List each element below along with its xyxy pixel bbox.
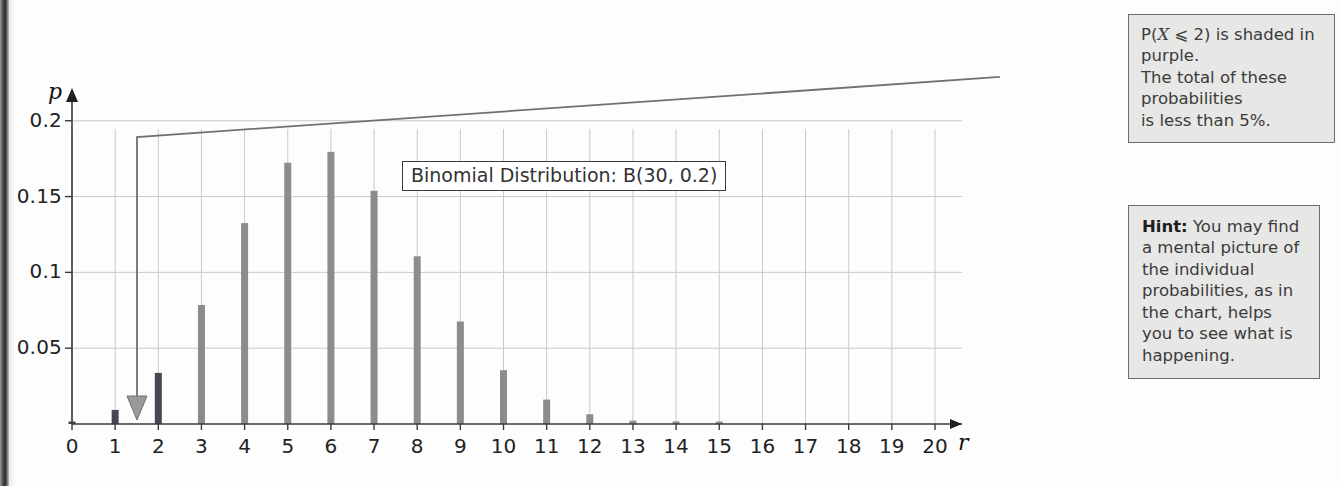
x-tick-label: 8 (397, 434, 437, 458)
x-tick-label: 3 (181, 434, 221, 458)
x-tick-label: 17 (786, 434, 826, 458)
bar (198, 305, 205, 424)
y-tick-label: 0.1 (0, 259, 62, 283)
callout-line-1: P(X ⩽ 2) is shaded in purple. (1141, 24, 1323, 67)
x-tick-label: 6 (311, 434, 351, 458)
bar (586, 414, 593, 424)
bar (284, 163, 291, 424)
x-tick-label: 13 (613, 434, 653, 458)
y-tick-label: 0.2 (0, 108, 62, 132)
x-tick-label: 9 (440, 434, 480, 458)
bar (414, 256, 421, 424)
bar (327, 152, 334, 424)
binomial-distribution-chart: 0.050.10.150.2 0123456789101112131415161… (0, 0, 1000, 486)
bar (241, 223, 248, 424)
bar (500, 370, 507, 424)
bar-shaded (155, 373, 162, 424)
chart-svg (0, 0, 1000, 486)
x-tick-label: 7 (354, 434, 394, 458)
x-tick-label: 20 (915, 434, 955, 458)
x-axis-title: r (958, 430, 969, 455)
x-tick-label: 12 (570, 434, 610, 458)
callout-line-3: is less than 5%. (1141, 110, 1323, 131)
x-axis-arrowhead (950, 419, 962, 429)
x-tick-label: 15 (699, 434, 739, 458)
x-tick-label: 19 (872, 434, 912, 458)
callout-prob-prefix: P( (1141, 25, 1157, 44)
leader-arrowhead-icon (127, 396, 147, 420)
x-tick-label: 11 (527, 434, 567, 458)
hint-callout: Hint: You may find a mental picture of t… (1128, 205, 1320, 379)
bar-shaded (112, 410, 119, 424)
x-tick-label: 0 (52, 434, 92, 458)
x-tick-label: 2 (138, 434, 178, 458)
x-axis-ticks (72, 424, 935, 430)
x-tick-label: 5 (268, 434, 308, 458)
page-background: 0.050.10.150.2 0123456789101112131415161… (0, 0, 1339, 486)
chart-title-box: Binomial Distribution: B(30, 0.2) (402, 161, 726, 191)
y-axis-ticks (65, 121, 72, 348)
x-tick-label: 4 (225, 434, 265, 458)
x-tick-label: 14 (656, 434, 696, 458)
x-tick-label: 18 (829, 434, 869, 458)
bar (371, 191, 378, 424)
y-axis-title: p (48, 79, 62, 104)
bars-group (69, 152, 723, 424)
y-tick-label: 0.15 (0, 184, 62, 208)
bar (543, 400, 550, 424)
random-variable-symbol: X (1157, 25, 1169, 44)
shaded-probability-callout: P(X ⩽ 2) is shaded in purple. The total … (1128, 14, 1335, 143)
callout-line-2: The total of these probabilities (1141, 67, 1323, 110)
x-tick-label: 16 (742, 434, 782, 458)
x-tick-label: 1 (95, 434, 135, 458)
bar (457, 321, 464, 424)
hint-label: Hint: (1142, 217, 1188, 236)
y-tick-label: 0.05 (0, 335, 62, 359)
hint-text: You may find a mental picture of the ind… (1142, 217, 1299, 365)
x-tick-label: 10 (484, 434, 524, 458)
y-axis-arrowhead (66, 88, 78, 102)
